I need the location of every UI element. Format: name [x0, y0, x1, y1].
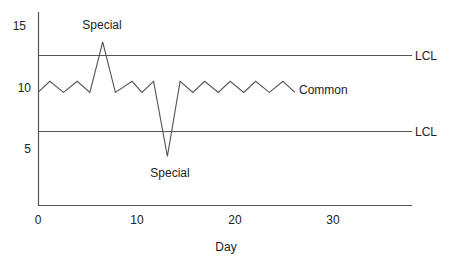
special-cause-label-top: Special	[82, 18, 121, 32]
common-cause-label: Common	[299, 83, 348, 97]
y-tick-15: 15	[13, 19, 27, 33]
x-tick-0: 0	[35, 213, 42, 227]
control-chart: 15 10 5 0 10 20 30 Day LCL LCL Special S…	[0, 0, 454, 267]
y-tick-10: 10	[18, 81, 32, 95]
x-axis-title: Day	[215, 240, 236, 254]
x-tick-20: 20	[228, 213, 242, 227]
x-tick-10: 10	[130, 213, 144, 227]
lower-limit-label: LCL	[415, 125, 437, 139]
y-tick-5: 5	[24, 142, 31, 156]
process-series-line	[38, 42, 295, 156]
upper-limit-label: LCL	[415, 49, 437, 63]
special-cause-label-bottom: Special	[150, 166, 189, 180]
x-tick-30: 30	[326, 213, 340, 227]
